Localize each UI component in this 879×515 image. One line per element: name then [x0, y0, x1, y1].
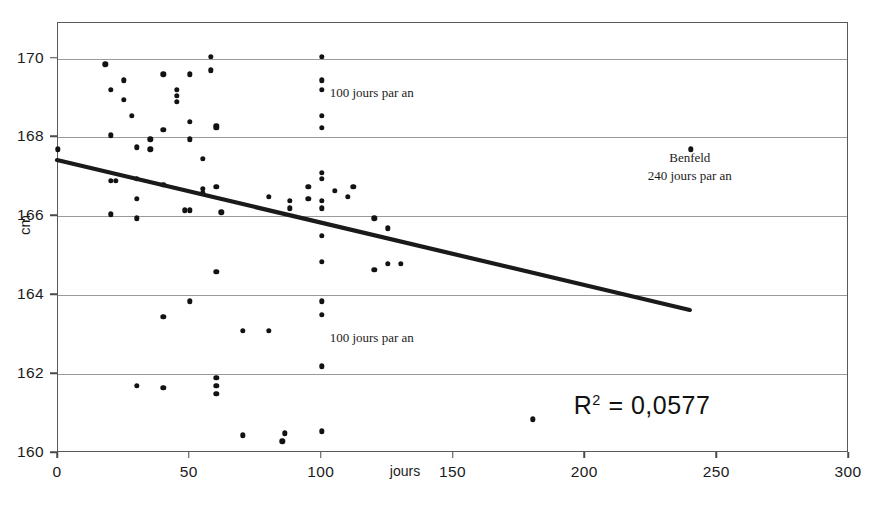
data-point — [306, 196, 311, 201]
data-point — [187, 72, 192, 77]
y-tick-mark — [50, 136, 57, 138]
data-point — [319, 429, 324, 434]
x-tick-mark — [56, 452, 58, 458]
plot-area — [57, 22, 848, 452]
data-point — [161, 182, 166, 187]
data-point — [279, 438, 284, 443]
data-point — [332, 188, 337, 193]
data-point — [174, 93, 179, 98]
x-tick-mark — [584, 452, 586, 458]
data-point — [351, 184, 356, 189]
data-point — [319, 364, 324, 369]
data-point — [174, 87, 179, 92]
data-point — [213, 383, 218, 388]
data-point — [200, 156, 205, 161]
data-point — [213, 391, 218, 396]
data-point — [161, 385, 166, 390]
data-point — [398, 261, 403, 266]
data-point — [319, 77, 324, 82]
data-point — [174, 99, 179, 104]
r-squared-label: R2 = 0,0577 — [574, 391, 711, 420]
data-point — [266, 194, 271, 199]
data-point — [134, 145, 139, 150]
x-tick-label: 250 — [703, 463, 730, 481]
data-point — [287, 206, 292, 211]
data-point — [121, 77, 126, 82]
data-point — [319, 298, 324, 303]
chart-annotation: Benfeld — [669, 150, 710, 166]
data-point — [113, 178, 118, 183]
page-edge-margin — [0, 496, 879, 515]
data-point — [161, 127, 166, 132]
data-point — [200, 190, 205, 195]
data-point — [129, 113, 134, 118]
x-tick-label: 100 — [307, 463, 334, 481]
data-point — [319, 259, 324, 264]
data-point — [161, 72, 166, 77]
gridline — [58, 59, 847, 60]
data-point — [134, 196, 139, 201]
x-tick-label: 300 — [834, 463, 861, 481]
y-tick-label: 168 — [17, 127, 44, 145]
x-tick-mark — [715, 452, 717, 458]
gridline — [58, 216, 847, 217]
data-point — [108, 87, 113, 92]
data-point — [134, 383, 139, 388]
x-tick-label: 0 — [52, 463, 61, 481]
data-point — [219, 210, 224, 215]
x-tick-label: 200 — [571, 463, 598, 481]
gridline — [58, 295, 847, 296]
data-point — [187, 119, 192, 124]
data-point — [530, 417, 535, 422]
data-point — [319, 206, 324, 211]
y-axis-title: cm — [16, 215, 33, 235]
y-tick-mark — [50, 293, 57, 295]
data-point — [208, 68, 213, 73]
x-tick-mark — [452, 452, 454, 458]
x-tick-label: 50 — [180, 463, 198, 481]
data-point — [213, 269, 218, 274]
data-point — [345, 194, 350, 199]
data-point — [134, 216, 139, 221]
x-tick-label: 150 — [439, 463, 466, 481]
data-point — [385, 261, 390, 266]
data-point — [240, 433, 245, 438]
data-point — [319, 198, 324, 203]
chart-annotation: 100 jours par an — [330, 330, 414, 346]
scatter-chart: 160162164166168170 cm 050100150200250300… — [0, 0, 879, 515]
data-point — [287, 198, 292, 203]
x-axis-title: jours — [390, 463, 420, 479]
data-point — [187, 208, 192, 213]
data-point — [319, 176, 324, 181]
data-point — [213, 375, 218, 380]
data-point — [213, 184, 218, 189]
data-point — [319, 170, 324, 175]
x-tick-mark — [188, 452, 190, 458]
data-point — [319, 87, 324, 92]
y-tick-label: 170 — [17, 49, 44, 67]
x-tick-mark — [320, 452, 322, 458]
data-point — [385, 225, 390, 230]
data-point — [372, 267, 377, 272]
data-point — [121, 97, 126, 102]
data-point — [103, 62, 108, 67]
y-axis: 160162164166168170 — [0, 0, 57, 515]
data-point — [148, 137, 153, 142]
data-point — [213, 125, 218, 130]
data-point — [240, 328, 245, 333]
data-point — [282, 431, 287, 436]
y-tick-mark — [50, 372, 57, 374]
x-tick-mark — [847, 452, 849, 458]
gridline — [58, 374, 847, 375]
chart-annotation: 240 jours par an — [648, 168, 732, 184]
data-point — [319, 233, 324, 238]
data-point — [372, 216, 377, 221]
data-point — [306, 184, 311, 189]
data-point — [319, 312, 324, 317]
data-point — [161, 314, 166, 319]
data-point — [266, 328, 271, 333]
chart-annotation: 100 jours par an — [330, 85, 414, 101]
data-point — [187, 298, 192, 303]
data-point — [134, 176, 139, 181]
data-point — [148, 147, 153, 152]
